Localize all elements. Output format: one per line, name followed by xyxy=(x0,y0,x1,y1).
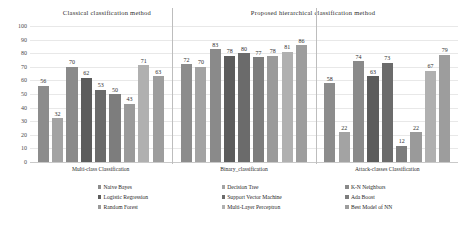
bar-slot[interactable]: 43 xyxy=(122,26,136,162)
legend-item[interactable]: Naive Bayes xyxy=(98,182,218,192)
bar[interactable] xyxy=(425,71,436,162)
bar-slot[interactable]: 70 xyxy=(65,26,79,162)
bar[interactable] xyxy=(238,53,249,162)
bar-value-label: 81 xyxy=(284,44,290,50)
bar[interactable] xyxy=(181,64,192,162)
bar[interactable] xyxy=(210,49,221,162)
legend-swatch-icon xyxy=(345,195,348,198)
y-axis-tick-label: 60 xyxy=(3,77,27,83)
y-axis-tick-label: 30 xyxy=(3,118,27,124)
bar[interactable] xyxy=(324,83,335,162)
bar-slot[interactable]: 72 xyxy=(179,26,193,162)
category-axis-label: Attack-classes Classification xyxy=(323,166,452,172)
category-axis-label: Multi-class Classification xyxy=(36,166,165,172)
bar-slot[interactable]: 83 xyxy=(208,26,222,162)
bar-value-label: 71 xyxy=(141,58,147,64)
y-axis-tick-label: 80 xyxy=(3,50,27,56)
bar-slot[interactable]: 50 xyxy=(108,26,122,162)
bar[interactable] xyxy=(267,56,278,162)
category-axis-label: Binary_classification xyxy=(179,166,308,172)
bar-slot[interactable]: 53 xyxy=(94,26,108,162)
legend-item[interactable]: K-N Neighbors xyxy=(345,182,465,192)
chart-legend: Naive BayesDecision TreeK-N NeighborsLog… xyxy=(0,182,465,212)
bar-value-label: 63 xyxy=(155,69,161,75)
bar-value-label: 74 xyxy=(356,54,362,60)
bar-value-label: 32 xyxy=(55,111,61,117)
bar-slot[interactable]: 74 xyxy=(351,26,365,162)
y-axis-tick-label: 10 xyxy=(3,145,27,151)
bar-group: 727083788077788186 xyxy=(179,26,308,162)
bar-slot[interactable]: 71 xyxy=(137,26,151,162)
legend-swatch-icon xyxy=(222,205,225,208)
bar-slot[interactable]: 77 xyxy=(251,26,265,162)
bar[interactable] xyxy=(52,118,63,162)
legend-item[interactable]: Random Forest xyxy=(98,202,218,212)
legend-item[interactable]: Best Model of NN xyxy=(345,202,465,212)
bar-slot[interactable]: 81 xyxy=(280,26,294,162)
bar[interactable] xyxy=(153,76,164,162)
legend-swatch-icon xyxy=(222,195,225,198)
legend-label: Logistic Regression xyxy=(104,194,149,200)
bar-slot[interactable]: 78 xyxy=(222,26,236,162)
bar-value-label: 62 xyxy=(83,70,89,76)
bar[interactable] xyxy=(253,57,264,162)
bar-slot[interactable]: 79 xyxy=(438,26,452,162)
bar-slot[interactable]: 73 xyxy=(380,26,394,162)
legend-label: Best Model of NN xyxy=(351,204,392,210)
bar-value-label: 53 xyxy=(98,82,104,88)
bar[interactable] xyxy=(382,63,393,162)
bar[interactable] xyxy=(396,146,407,162)
bar-slot[interactable]: 22 xyxy=(409,26,423,162)
bar[interactable] xyxy=(138,65,149,162)
bar-slot[interactable]: 67 xyxy=(423,26,437,162)
bar-value-label: 86 xyxy=(299,38,305,44)
bar-value-label: 78 xyxy=(270,48,276,54)
panel-title-proposed: Proposed hierarchical classification met… xyxy=(218,9,408,16)
y-axis-tick-label: 40 xyxy=(3,105,27,111)
legend-swatch-icon xyxy=(222,185,225,188)
bar-slot[interactable]: 63 xyxy=(151,26,165,162)
bar[interactable] xyxy=(296,45,307,162)
bar-slot[interactable]: 78 xyxy=(266,26,280,162)
legend-item[interactable]: Decision Tree xyxy=(222,182,342,192)
bar-value-label: 22 xyxy=(341,125,347,131)
bar-slot[interactable]: 22 xyxy=(337,26,351,162)
legend-swatch-icon xyxy=(98,205,101,208)
y-axis-tick-label: 70 xyxy=(3,64,27,70)
bar-value-label: 22 xyxy=(413,125,419,131)
bar-slot[interactable]: 80 xyxy=(237,26,251,162)
bar[interactable] xyxy=(38,86,49,162)
bar[interactable] xyxy=(353,61,364,162)
bar[interactable] xyxy=(66,67,77,162)
bar[interactable] xyxy=(282,52,293,162)
bar[interactable] xyxy=(224,56,235,162)
bar-slot[interactable]: 86 xyxy=(294,26,308,162)
legend-swatch-icon xyxy=(98,195,101,198)
bar[interactable] xyxy=(124,104,135,162)
bar[interactable] xyxy=(195,67,206,162)
y-axis-tick-label: 50 xyxy=(3,91,27,97)
bar[interactable] xyxy=(339,132,350,162)
bar-slot[interactable]: 56 xyxy=(36,26,50,162)
bar-slot[interactable]: 58 xyxy=(323,26,337,162)
bar-value-label: 58 xyxy=(327,76,333,82)
legend-item[interactable]: Ada Boost xyxy=(345,192,465,202)
legend-item[interactable]: Multi-Layer Perceptron xyxy=(222,202,342,212)
bar[interactable] xyxy=(367,76,378,162)
bar-slot[interactable]: 12 xyxy=(395,26,409,162)
bar-slot[interactable]: 70 xyxy=(194,26,208,162)
bar-slot[interactable]: 32 xyxy=(50,26,64,162)
bar-value-label: 56 xyxy=(40,78,46,84)
bar-slot[interactable]: 62 xyxy=(79,26,93,162)
bar-slot[interactable]: 63 xyxy=(366,26,380,162)
legend-item[interactable]: Logistic Regression xyxy=(98,192,218,202)
bar[interactable] xyxy=(109,94,120,162)
bar[interactable] xyxy=(95,90,106,162)
bar[interactable] xyxy=(439,55,450,162)
legend-label: Decision Tree xyxy=(227,184,258,190)
panel-separator xyxy=(316,8,317,164)
legend-label: K-N Neighbors xyxy=(351,184,386,190)
bar[interactable] xyxy=(410,132,421,162)
legend-item[interactable]: Support Vector Machine xyxy=(222,192,342,202)
bar[interactable] xyxy=(81,78,92,162)
